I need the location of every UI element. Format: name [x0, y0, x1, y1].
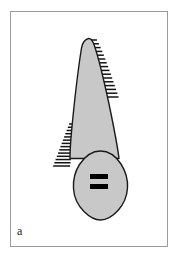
figure-panel: a — [0, 0, 178, 260]
tapered-body-shape — [70, 38, 119, 158]
upper-black-bar — [90, 174, 108, 179]
panel-label: a — [17, 225, 22, 237]
figure-drawing-canvas — [0, 0, 178, 260]
lower-black-bar — [90, 184, 108, 189]
